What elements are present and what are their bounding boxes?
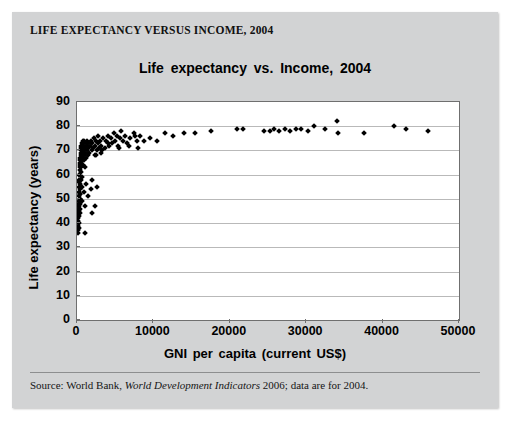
data-point bbox=[391, 123, 397, 129]
scatter-points bbox=[77, 102, 459, 320]
data-point bbox=[94, 184, 100, 190]
x-tick-mark bbox=[229, 319, 230, 323]
y-tick-mark bbox=[76, 246, 80, 247]
figure-panel: LIFE EXPECTANCY VERSUS INCOME, 2004 Life… bbox=[12, 12, 498, 408]
plot-area bbox=[76, 101, 460, 321]
data-point bbox=[162, 131, 168, 137]
y-tick-mark bbox=[76, 222, 80, 223]
y-tick-label: 60 bbox=[40, 167, 70, 180]
data-point bbox=[135, 145, 141, 151]
data-point bbox=[334, 119, 340, 125]
x-axis-title: GNI per capita (current US$) bbox=[12, 346, 498, 361]
x-tick-mark bbox=[382, 319, 383, 323]
data-point bbox=[154, 138, 160, 144]
data-point bbox=[287, 128, 293, 134]
panel-header: LIFE EXPECTANCY VERSUS INCOME, 2004 bbox=[30, 24, 274, 36]
data-point bbox=[181, 131, 187, 137]
y-tick-mark bbox=[76, 125, 80, 126]
data-point bbox=[240, 126, 246, 132]
data-point bbox=[193, 131, 199, 137]
data-point bbox=[403, 126, 409, 132]
x-tick-label: 10000 bbox=[135, 324, 170, 338]
y-tick-label: 30 bbox=[40, 240, 70, 253]
source-suffix: 2006; data are for 2004. bbox=[260, 379, 368, 391]
x-tick-label: 50000 bbox=[441, 324, 476, 338]
data-point bbox=[261, 128, 267, 134]
y-tick-label: 40 bbox=[40, 216, 70, 229]
source-note: Source: World Bank, World Development In… bbox=[30, 379, 368, 391]
data-point bbox=[126, 143, 132, 149]
y-tick-label: 70 bbox=[40, 143, 70, 156]
x-tick-label: 40000 bbox=[364, 324, 399, 338]
data-point bbox=[92, 203, 98, 209]
data-point bbox=[77, 225, 82, 231]
data-point bbox=[426, 128, 432, 134]
y-axis-title: Life expectancy (years) bbox=[26, 103, 41, 333]
chart-title: Life expectancy vs. Income, 2004 bbox=[12, 60, 498, 76]
data-point bbox=[141, 138, 147, 144]
source-divider bbox=[30, 372, 480, 373]
y-tick-mark bbox=[76, 295, 80, 296]
y-tick-mark bbox=[76, 198, 80, 199]
data-point bbox=[147, 135, 153, 141]
x-tick-label: 30000 bbox=[288, 324, 323, 338]
y-tick-label: 90 bbox=[40, 95, 70, 108]
data-point bbox=[116, 145, 122, 151]
x-tick-mark bbox=[76, 319, 77, 323]
y-tick-mark bbox=[76, 174, 80, 175]
y-tick-mark bbox=[76, 101, 80, 102]
x-tick-mark bbox=[458, 319, 459, 323]
data-point bbox=[311, 123, 317, 129]
x-tick-label: 20000 bbox=[211, 324, 246, 338]
data-point bbox=[89, 211, 95, 217]
data-point bbox=[89, 177, 95, 183]
y-tick-mark bbox=[76, 149, 80, 150]
y-tick-mark bbox=[76, 271, 80, 272]
x-tick-mark bbox=[305, 319, 306, 323]
data-point bbox=[83, 230, 89, 236]
source-prefix: Source: World Bank, bbox=[30, 379, 125, 391]
y-tick-label: 10 bbox=[40, 289, 70, 302]
data-point bbox=[335, 131, 341, 137]
data-point bbox=[86, 194, 92, 200]
y-tick-label: 0 bbox=[40, 313, 70, 326]
data-point bbox=[88, 186, 94, 192]
data-point bbox=[322, 126, 328, 132]
y-tick-label: 20 bbox=[40, 264, 70, 277]
data-point bbox=[208, 128, 214, 134]
x-tick-label: 0 bbox=[73, 324, 80, 338]
data-point bbox=[298, 126, 304, 132]
source-publication: World Development Indicators bbox=[125, 379, 260, 391]
y-tick-label: 50 bbox=[40, 192, 70, 205]
data-point bbox=[305, 128, 311, 134]
data-point bbox=[170, 133, 176, 139]
y-tick-label: 80 bbox=[40, 119, 70, 132]
data-point bbox=[361, 131, 367, 137]
x-axis-tick-labels: 01000020000300004000050000 bbox=[76, 324, 458, 342]
x-tick-mark bbox=[152, 319, 153, 323]
